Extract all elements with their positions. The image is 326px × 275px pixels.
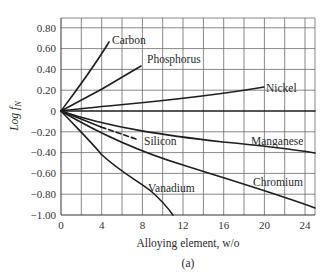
x-tick-label: 12 <box>178 219 189 231</box>
x-tick-label: 16 <box>218 219 230 231</box>
label-chromium: Chromium <box>253 176 303 188</box>
label-vanadium: Vanadium <box>148 182 195 194</box>
x-axis-label: Alloying element, w/o <box>136 237 239 250</box>
subfigure-label: (a) <box>182 257 195 270</box>
x-tick-label: 20 <box>259 219 271 231</box>
y-tick-label: 0.80 <box>37 22 57 34</box>
y-tick-label: −0.80 <box>31 188 57 200</box>
label-carbon: Carbon <box>112 34 146 46</box>
label-phosphorus: Phosphorus <box>147 53 201 66</box>
y-tick-label: 0.20 <box>37 84 57 96</box>
svg-text:Log fN: Log fN <box>8 100 23 132</box>
y-axis-label-main: Log f <box>8 105 21 132</box>
y-axis-label-subscript: N <box>13 100 23 108</box>
x-tick-label: 8 <box>140 219 146 231</box>
y-axis-label: Log fN <box>8 100 23 132</box>
y-tick-label: −1.00 <box>31 209 57 221</box>
y-tick-label: −0.60 <box>31 167 57 179</box>
label-silicon: Silicon <box>144 135 177 147</box>
y-tick-label: 0.40 <box>37 63 57 75</box>
x-tick-label: 0 <box>58 219 64 231</box>
activity-coefficient-chart: 0.80 0.60 0.40 0.20 0 −0.20 −0.40 −0.60 … <box>0 0 326 275</box>
x-tick-label: 24 <box>300 219 312 231</box>
x-tick-labels: 0 4 8 12 16 20 24 <box>58 219 311 231</box>
curve-labels: Carbon Phosphorus Nickel Manganese Silic… <box>112 34 303 194</box>
y-tick-label: 0.60 <box>37 42 57 54</box>
label-manganese: Manganese <box>251 135 303 148</box>
y-tick-labels: 0.80 0.60 0.40 0.20 0 −0.20 −0.40 −0.60 … <box>31 22 57 221</box>
y-tick-label: 0 <box>51 105 57 117</box>
y-tick-label: −0.20 <box>31 126 57 138</box>
x-tick-label: 4 <box>99 219 105 231</box>
y-tick-label: −0.40 <box>31 146 57 158</box>
label-nickel: Nickel <box>266 82 297 94</box>
